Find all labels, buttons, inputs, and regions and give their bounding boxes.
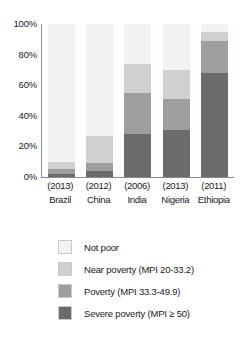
x-axis-country-label: Brazil: [41, 192, 79, 207]
bar-ethiopia[interactable]: [201, 24, 228, 177]
y-tick-label: 40%: [19, 111, 37, 121]
bar-segment: [201, 73, 228, 177]
legend-item[interactable]: Poverty (MPI 33.3-49.9): [58, 280, 248, 302]
bar-segment: [86, 24, 113, 136]
x-axis-year-label: (2013): [156, 179, 194, 192]
x-axis-country-label: India: [118, 192, 156, 207]
bar-segment: [86, 171, 113, 177]
legend-item[interactable]: Near poverty (MPI 20-33.2): [58, 258, 248, 280]
bar-segment: [201, 32, 228, 41]
plot-area: [41, 24, 234, 178]
bar-segment: [163, 70, 190, 99]
legend-item-label: Poverty (MPI 33.3-49.9): [84, 286, 180, 297]
bar-segment: [124, 134, 151, 177]
x-axis-country-label: Nigeria: [156, 192, 194, 207]
x-axis-country-label: Ethiopia: [195, 192, 233, 207]
legend-item[interactable]: Not poor: [58, 236, 248, 258]
x-axis-year-label: (2011): [195, 179, 233, 192]
bar-india[interactable]: [124, 24, 151, 177]
y-tick-label: 20%: [19, 142, 37, 152]
bar-segment: [48, 24, 75, 162]
bar-segment: [86, 163, 113, 171]
bar-nigeria[interactable]: [163, 24, 190, 177]
bar-segment: [163, 24, 190, 70]
x-axis-group: (2013)Nigeria: [156, 179, 194, 215]
bar-segment: [86, 136, 113, 164]
chart-legend: Not poorNear poverty (MPI 20-33.2)Povert…: [58, 236, 248, 324]
bar-brazil[interactable]: [48, 24, 75, 177]
bar-china[interactable]: [86, 24, 113, 177]
legend-item-label: Severe poverty (MPI ≥ 50): [84, 308, 190, 319]
x-axis-country-label: China: [80, 192, 118, 207]
y-tick-label: 0%: [24, 172, 37, 182]
x-axis-group: (2012)China: [80, 179, 118, 215]
bar-segment: [124, 24, 151, 64]
bar-segment: [163, 99, 190, 130]
bar-segment: [48, 174, 75, 177]
bar-segment: [163, 130, 190, 177]
stacked-bar-chart: 100%80%60%40%20%0% (2013)Brazil(2012)Chi…: [0, 0, 252, 337]
legend-item-label: Near poverty (MPI 20-33.2): [84, 264, 194, 275]
bar-segment: [124, 93, 151, 134]
x-axis-year-label: (2012): [80, 179, 118, 192]
bar-segment: [48, 162, 75, 170]
x-axis-group: (2013)Brazil: [41, 179, 79, 215]
bars-layer: [42, 24, 234, 177]
legend-swatch-icon: [58, 262, 72, 276]
legend-item[interactable]: Severe poverty (MPI ≥ 50): [58, 302, 248, 324]
y-tick-label: 100%: [14, 19, 38, 29]
legend-swatch-icon: [58, 240, 72, 254]
legend-item-label: Not poor: [84, 242, 119, 253]
legend-swatch-icon: [58, 284, 72, 298]
x-axis-group: (2006)India: [118, 179, 156, 215]
x-axis-year-label: (2006): [118, 179, 156, 192]
x-axis-year-label: (2013): [41, 179, 79, 192]
bar-segment: [201, 41, 228, 73]
legend-swatch-icon: [58, 306, 72, 320]
x-axis: (2013)Brazil(2012)China(2006)India(2013)…: [41, 179, 233, 215]
y-axis: 100%80%60%40%20%0%: [0, 0, 40, 215]
bar-segment: [201, 24, 228, 32]
plot-wrapper: 100%80%60%40%20%0% (2013)Brazil(2012)Chi…: [0, 0, 252, 215]
x-axis-group: (2011)Ethiopia: [195, 179, 233, 215]
bar-segment: [124, 64, 151, 93]
y-tick-label: 60%: [19, 80, 37, 90]
y-tick-label: 80%: [19, 50, 37, 60]
